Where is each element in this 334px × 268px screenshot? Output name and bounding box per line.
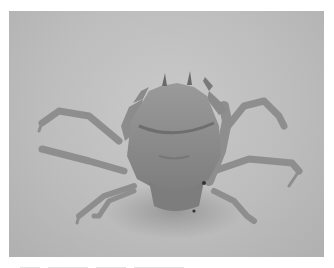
eye-stalk-right [187, 71, 192, 85]
crab-illustration [9, 11, 324, 257]
caption-artifact [20, 258, 320, 266]
crab-photo [9, 11, 324, 257]
eye-stalk-left [162, 73, 167, 86]
